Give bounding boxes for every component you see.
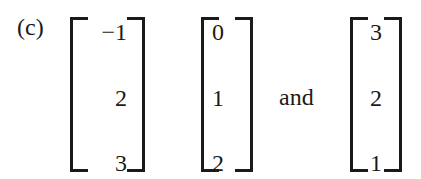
vector-entry: 1 [370,151,382,175]
vector-entry: 3 [370,20,382,44]
left-bracket [70,17,88,172]
right-bracket [384,17,402,172]
left-bracket [350,17,368,172]
vector-entry: −1 [101,20,127,44]
column-vector-1: −1 2 3 [70,17,145,172]
problem-label: (c) [17,15,44,39]
vector-entry: 2 [370,86,382,110]
column-vector-2: 0 1 2 [201,17,253,172]
vector-entry: 2 [212,151,224,175]
vector-entry: 3 [115,151,127,175]
vector-entry: 2 [115,86,127,110]
column-vector-3: 3 2 1 [350,17,402,172]
right-bracket [127,17,145,172]
vector-entry: 0 [212,20,224,44]
conjunction-and: and [279,85,314,109]
vector-entry: 1 [212,86,224,110]
right-bracket [235,17,253,172]
